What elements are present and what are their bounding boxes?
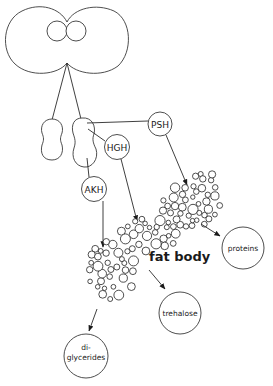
fat-body-cell <box>212 185 218 191</box>
fat-body-cell <box>98 249 103 254</box>
fat-body-cell <box>168 210 174 216</box>
fat-body-cell <box>127 283 135 291</box>
fat-body-cell <box>125 224 130 229</box>
fat-body-cell <box>213 212 218 217</box>
fat-body-cell <box>198 184 206 192</box>
fat-body-cell <box>190 218 194 222</box>
fat-body-cell <box>151 239 161 249</box>
fat-body-cell <box>103 250 109 256</box>
brain-inner-lobe-left <box>47 21 67 41</box>
diagram-svg: PSH HGH AKH fat body proteins trehalose … <box>0 0 273 386</box>
hormone-label-hgh: HGH <box>107 143 128 153</box>
product-label-diglycerides-line2: glycerides <box>67 353 106 362</box>
edge-gland-psh <box>87 121 148 123</box>
product-label-trehalose: trehalose <box>162 309 197 318</box>
product-label-diglycerides-line1: di- <box>81 343 91 352</box>
fat-body-cell <box>191 195 195 199</box>
fat-body-cell <box>171 229 180 238</box>
fat-body-cell <box>105 260 110 265</box>
fat-body-cell <box>211 192 219 200</box>
fat-body-cell <box>95 285 100 290</box>
fat-body-cell <box>164 225 169 230</box>
hormone-node-akh: AKH <box>82 177 107 202</box>
hormone-node-hgh: HGH <box>105 135 130 160</box>
fat-body-cell <box>142 231 151 240</box>
fat-body-cell <box>103 239 109 245</box>
fat-body-cell <box>102 286 106 290</box>
product-label-proteins: proteins <box>228 244 259 253</box>
arrow-hgh-fatbody <box>121 159 137 221</box>
fat-body-cell <box>107 274 113 280</box>
arrow-psh-fatbody <box>166 135 187 185</box>
fat-body-cell <box>196 202 201 207</box>
fat-body-cell <box>133 219 138 224</box>
fat-body-cell <box>114 290 124 300</box>
fat-body-cell <box>169 193 178 202</box>
diagram-canvas: PSH HGH AKH fat body proteins trehalose … <box>0 0 273 386</box>
fat-body-cell <box>108 297 113 302</box>
arrow-fatbody-proteins <box>201 224 220 236</box>
arrow-fatbody-diglycerides <box>89 309 97 331</box>
fat-body-cell <box>206 216 212 222</box>
brain-inner-lobe-right <box>66 21 86 41</box>
arrow-fatbody-trehalose <box>149 270 165 289</box>
fat-body-cell <box>178 203 186 211</box>
fat-body-cell <box>119 274 127 282</box>
fat-body-cell <box>179 191 185 197</box>
fat-body-cell <box>87 267 93 273</box>
corpus-cardiacum-left <box>41 119 62 160</box>
fat-body-cell <box>120 234 130 244</box>
fat-body-cell <box>186 213 191 218</box>
fat-body-cell <box>204 205 212 213</box>
fat-body-cell <box>99 290 107 298</box>
fat-body-cell <box>125 249 130 254</box>
hormone-label-akh: AKH <box>85 185 104 195</box>
fat-body-cell <box>93 261 103 271</box>
fat-body-cell <box>143 221 148 226</box>
fat-body-cell <box>135 224 143 232</box>
fat-body-cell <box>166 220 171 225</box>
fat-body-cell <box>208 178 213 183</box>
fat-body-cell <box>200 176 206 182</box>
fat-body-cell <box>191 184 196 189</box>
product-node-diglycerides: di- glycerides <box>64 334 108 378</box>
product-node-trehalose: trehalose <box>159 292 201 334</box>
fat-body-cell <box>95 253 102 260</box>
fat-body-cell <box>166 234 171 239</box>
fat-body-cell <box>89 260 94 265</box>
fat-body-cell <box>197 210 202 215</box>
hormone-label-psh: PSH <box>151 120 169 130</box>
fat-body-cell <box>182 185 189 192</box>
fat-body-cell <box>183 224 188 229</box>
fat-body-cell <box>217 203 223 209</box>
fat-body-cell <box>209 171 216 178</box>
fat-body-label: fat body <box>149 249 211 264</box>
fat-body-cell <box>119 257 124 262</box>
fat-body-cell <box>98 278 105 285</box>
fat-body-cell <box>159 207 166 214</box>
fat-body-cell <box>88 279 93 284</box>
fat-body-cell <box>205 192 210 197</box>
fat-body-cell <box>122 267 129 274</box>
fat-body-cell <box>173 216 180 223</box>
fat-body-cell <box>189 223 195 229</box>
fat-body-cell <box>136 241 142 247</box>
fat-body-cell <box>203 198 210 205</box>
fat-body-cell <box>130 268 137 275</box>
fat-body-cell <box>193 173 199 179</box>
fat-body-cluster <box>87 171 223 302</box>
fat-body-cell <box>108 267 114 273</box>
fat-body-cell <box>161 198 166 203</box>
fat-body-cell <box>154 224 159 229</box>
hormone-node-psh: PSH <box>148 112 172 136</box>
fat-body-cell <box>114 248 123 257</box>
fat-body-cell <box>152 230 158 236</box>
fat-body-cell <box>114 264 120 270</box>
fat-body-cell <box>170 183 179 192</box>
fat-body-cell <box>129 256 139 266</box>
fat-body-cell <box>147 225 151 229</box>
fat-body-cell <box>111 284 116 289</box>
fat-body-cell <box>194 218 199 223</box>
nerve-right <box>67 63 81 119</box>
fat-body-cell <box>170 241 176 247</box>
